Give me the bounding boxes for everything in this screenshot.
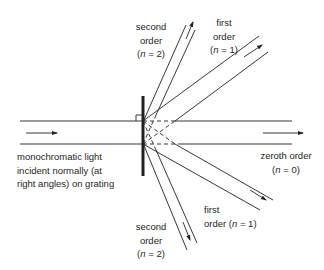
label-n: (n = 2) — [128, 47, 174, 61]
label-second-order-bottom: second order (n = 2) — [128, 220, 174, 261]
paren: ) — [297, 164, 300, 175]
label-text: first — [204, 16, 244, 30]
eq: = 2 — [146, 48, 162, 59]
first-order-top-beam-2 — [175, 52, 268, 121]
label-incident-light: monochromatic light incident normally (a… — [17, 150, 114, 191]
label-text: first — [204, 203, 257, 217]
label-text: order — [204, 30, 244, 44]
first-order-bottom-beam-1 — [143, 144, 260, 210]
label-first-order-bottom: first order (n = 1) — [204, 203, 257, 230]
label-n: (n = 1) — [204, 43, 244, 57]
eq: = 1 — [219, 44, 235, 55]
label-zeroth-order: zeroth order (n = 0) — [256, 149, 316, 176]
label-n: (n = 0) — [256, 163, 316, 177]
eq: = 1) — [237, 218, 256, 229]
label-text: right angles) on grating — [17, 177, 114, 191]
label-text: second — [128, 220, 174, 234]
paren: ) — [235, 44, 238, 55]
label-text: order — [128, 234, 174, 248]
label-text: second — [128, 20, 174, 34]
paren: ) — [162, 248, 165, 259]
label-n: (n = 2) — [128, 247, 174, 261]
first-order-top-arrow — [244, 45, 262, 57]
label-text: zeroth order — [256, 149, 316, 163]
label-first-order-top: first order (n = 1) — [204, 16, 244, 57]
label-text: order ( — [204, 218, 232, 229]
label-text: monochromatic light — [17, 150, 114, 164]
label-text: incident normally (at — [17, 164, 114, 178]
eq: = 2 — [146, 248, 162, 259]
label-text: order — [128, 34, 174, 48]
label-n: order (n = 1) — [204, 217, 257, 231]
eq: = 0 — [281, 164, 297, 175]
paren: ) — [162, 48, 165, 59]
label-second-order-top: second order (n = 2) — [128, 20, 174, 61]
